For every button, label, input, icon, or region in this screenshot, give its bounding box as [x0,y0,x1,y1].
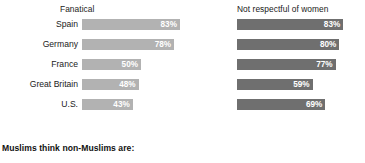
bar-track: 50% [82,59,200,70]
bar-value-label: 69% [306,99,322,110]
bar-not-respectful-spain[interactable]: 83% [237,19,343,30]
category-label-us: U.S. [61,99,78,110]
bar-value-label: 59% [293,79,309,90]
bar-value-label: 78% [155,39,171,50]
chart-caption: Muslims think non-Muslims are: [2,143,134,153]
bar-track: 59% [237,79,365,90]
bar-track: 83% [237,19,365,30]
category-label-spain: Spain [56,19,78,30]
bar-value-label: 48% [119,79,135,90]
bar-value-label: 80% [320,39,336,50]
bar-track: 80% [237,39,365,50]
bar-track: 48% [82,79,200,90]
chart-row: Great Britain 48% [0,79,200,90]
bar-group-fanatical: Spain 83% Germany 78% France 50% [0,19,200,110]
bar-value-label: 43% [113,99,129,110]
bar-track: 77% [237,59,365,70]
bar-not-respectful-great-britain[interactable]: 59% [237,79,313,90]
bar-not-respectful-france[interactable]: 77% [237,59,336,70]
chart-row: Germany 78% [0,39,200,50]
category-label-great-britain: Great Britain [30,79,78,90]
column-header-fanatical: Fanatical [60,4,94,14]
bar-value-label: 50% [122,59,138,70]
bar-fanatical-germany[interactable]: 78% [82,39,174,50]
chart-row: U.S. 43% [0,99,200,110]
chart-row: 80% [237,39,365,50]
bar-value-label: 77% [316,59,332,70]
chart-figure: Fanatical Not respectful of women Spain … [0,0,365,163]
bar-fanatical-us[interactable]: 43% [82,99,133,110]
bar-fanatical-great-britain[interactable]: 48% [82,79,139,90]
chart-row: 77% [237,59,365,70]
bar-value-label: 83% [161,19,177,30]
bar-not-respectful-us[interactable]: 69% [237,99,325,110]
bar-track: 69% [237,99,365,110]
chart-row: Spain 83% [0,19,200,30]
category-label-france: France [51,59,78,70]
bar-fanatical-france[interactable]: 50% [82,59,141,70]
bar-track: 83% [82,19,200,30]
bar-fanatical-spain[interactable]: 83% [82,19,180,30]
chart-row: 83% [237,19,365,30]
chart-row: 59% [237,79,365,90]
bar-group-not-respectful-of-women: 83% 80% 77% 59% [237,19,365,110]
bar-value-label: 83% [324,19,340,30]
bar-track: 78% [82,39,200,50]
column-header-not-respectful-of-women: Not respectful of women [237,4,328,14]
chart-row: 69% [237,99,365,110]
category-label-germany: Germany [43,39,78,50]
chart-row: France 50% [0,59,200,70]
bar-not-respectful-germany[interactable]: 80% [237,39,339,50]
bar-track: 43% [82,99,200,110]
